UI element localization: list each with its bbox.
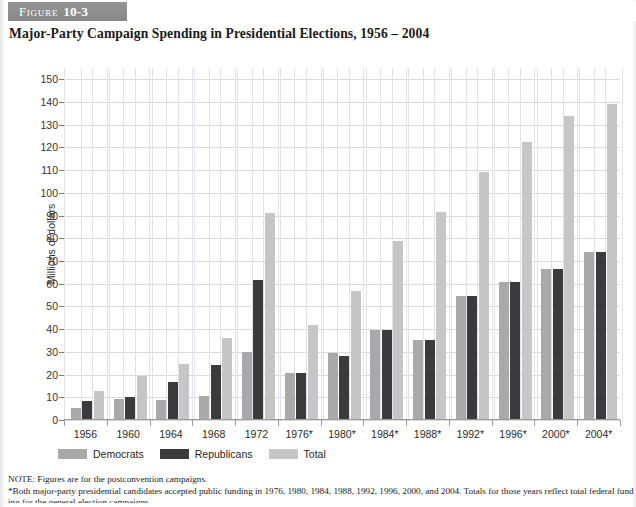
y-axis-tick-mark [59,397,64,398]
bar-democrats-2000 [541,269,551,419]
bar-democrats-1960 [114,399,124,419]
bar-republicans-2004 [596,252,606,419]
gridline-x [64,68,65,419]
y-axis-tick-label: 0 [18,414,58,426]
y-axis-tick-label: 30 [18,346,58,358]
bar-republicans-1988 [425,340,435,419]
bar-democrats-1984 [370,330,380,419]
bar-democrats-2004 [584,252,594,419]
bar-republicans-1992 [467,296,477,419]
bar-total-1980 [351,291,361,419]
bar-democrats-1956 [71,408,81,419]
bar-democrats-1968 [199,396,209,419]
x-axis-tick-mark [363,420,364,426]
y-axis-tick-mark [59,102,64,103]
y-axis-tick-label: 80 [18,232,58,244]
y-axis-tick-mark [59,147,64,148]
legend-swatch-total-icon [269,449,298,459]
x-axis-tick-mark [107,420,108,426]
x-axis-tick-label-1956: 1956 [74,428,97,440]
bar-republicans-1968 [211,365,221,419]
x-axis-tick-label-1976: 1976* [285,428,312,440]
gridline-y [65,420,620,421]
bars-layer [66,68,620,419]
legend-swatch-democrats-icon [58,449,87,459]
legend-label-republicans: Republicans [195,448,253,460]
x-axis-tick-label-1980: 1980* [328,428,355,440]
x-axis-tick-label-1988: 1988* [414,428,441,440]
bar-democrats-1972 [242,352,252,419]
note-line-clipped: ing for the general election campaigns. [8,497,634,503]
legend-swatch-republicans-icon [160,449,189,459]
y-axis-tick-mark [59,261,64,262]
bar-total-1960 [137,376,147,419]
y-axis-tick-label: 90 [18,210,58,222]
bar-total-1984 [393,241,403,419]
legend-item-democrats: Democrats [58,448,144,460]
y-axis-tick-label: 60 [18,278,58,290]
legend-item-republicans: Republicans [160,448,253,460]
y-axis-tick-label: 40 [18,323,58,335]
bar-total-1972 [265,213,275,419]
y-axis-tick-mark [59,238,64,239]
legend-label-total: Total [304,448,326,460]
bar-total-1992 [479,172,489,419]
y-axis-tick-mark [59,329,64,330]
x-axis-tick-label-2004: 2004* [585,428,612,440]
x-axis-tick-label-1960: 1960 [116,428,139,440]
note-line-asterisk: *Both major-party presidential candidate… [8,486,634,498]
bar-republicans-1960 [125,397,135,419]
legend-label-democrats: Democrats [93,448,144,460]
x-axis-tick-label-1992: 1992* [457,428,484,440]
y-axis-tick-mark [59,352,64,353]
bar-democrats-1996 [499,282,509,419]
x-axis-tick-mark [449,420,450,426]
chart-legend: Democrats Republicans Total [58,448,342,460]
x-axis-tick-mark [278,420,279,426]
x-axis-tick-mark [534,420,535,426]
x-axis-tick-label-1968: 1968 [202,428,225,440]
y-axis-tick-label: 140 [18,96,58,108]
figure-number: 10-3 [63,4,88,19]
bar-total-1988 [436,212,446,419]
bar-democrats-1988 [413,340,423,419]
x-axis-tick-mark [150,420,151,426]
x-axis-tick-label-1972: 1972 [245,428,268,440]
bar-total-1976 [308,325,318,419]
y-axis-tick-mark [59,216,64,217]
figure-band-background [127,2,636,21]
y-axis-tick-label: 50 [18,300,58,312]
x-axis-tick-label-2000: 2000* [542,428,569,440]
legend-item-total: Total [269,448,326,460]
bar-republicans-1972 [253,280,263,419]
y-axis-tick-mark [59,125,64,126]
bar-republicans-1964 [168,382,178,419]
x-axis-tick-mark [64,420,65,426]
bar-total-1964 [179,364,189,419]
y-axis-tick-label: 110 [18,164,58,176]
note-line-general: NOTE: Figures are for the postconvention… [8,474,634,486]
y-axis-tick-label: 130 [18,119,58,131]
chart-container: Millions of dollars 01020304050607080901… [0,54,636,469]
y-axis-tick-label: 150 [18,73,58,85]
y-axis-tick-label: 20 [18,369,58,381]
bar-democrats-1980 [328,353,338,419]
plot-area: Millions of dollars [64,68,620,420]
bar-total-2000 [564,116,574,419]
bar-democrats-1992 [456,296,466,419]
page-title: Major-Party Campaign Spending in Preside… [9,26,429,42]
x-axis-tick-mark [577,420,578,426]
x-axis-tick-mark [321,420,322,426]
x-axis-tick-label-1964: 1964 [159,428,182,440]
figure-notes: NOTE: Figures are for the postconvention… [8,474,634,503]
figure-number-band: Figure10-3 [8,2,127,21]
y-axis-tick-label: 10 [18,391,58,403]
x-axis-tick-label-1996: 1996* [499,428,526,440]
bar-republicans-1984 [382,330,392,419]
y-axis-tick-label: 70 [18,255,58,267]
bar-total-2004 [607,104,617,419]
gridline-x [622,68,623,419]
bar-republicans-1996 [510,282,520,419]
y-axis-tick-mark [59,79,64,80]
x-axis-tick-mark [235,420,236,426]
